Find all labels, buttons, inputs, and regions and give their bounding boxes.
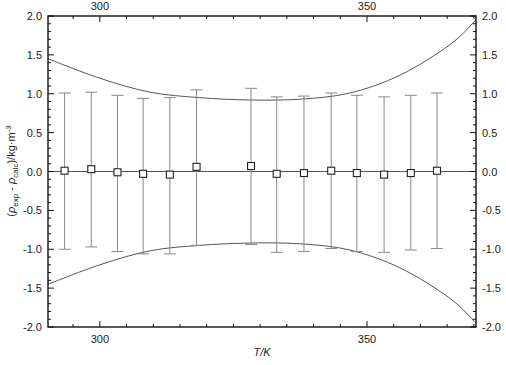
x-tick-label-top: 350 bbox=[358, 0, 376, 12]
svg-text:(ρexp - ρcalc)/kg·m-3: (ρexp - ρcalc)/kg·m-3 bbox=[4, 125, 20, 217]
data-point bbox=[298, 96, 310, 252]
square-marker bbox=[433, 167, 440, 174]
square-marker bbox=[381, 171, 388, 178]
square-marker bbox=[328, 167, 335, 174]
square-marker bbox=[166, 171, 173, 178]
x-tick-label-bottom: 300 bbox=[91, 333, 109, 345]
data-point bbox=[137, 98, 149, 254]
square-marker bbox=[407, 170, 414, 177]
y-tick-label-left: 1.0 bbox=[27, 88, 42, 100]
data-point bbox=[405, 95, 417, 250]
data-point bbox=[111, 95, 123, 251]
data-point bbox=[431, 93, 443, 249]
y-tick-label-left: 2.0 bbox=[27, 10, 42, 22]
y-tick-label-right: 1.5 bbox=[482, 49, 497, 61]
data-point bbox=[325, 93, 337, 249]
plot-area bbox=[48, 20, 476, 323]
y-tick-label-right: 0.0 bbox=[482, 166, 497, 178]
square-marker bbox=[193, 163, 200, 170]
y-tick-label-right: 0.5 bbox=[482, 127, 497, 139]
y-tick-label-left: 1.5 bbox=[27, 49, 42, 61]
data-point bbox=[85, 92, 97, 247]
square-marker bbox=[114, 169, 121, 176]
data-point bbox=[164, 98, 176, 254]
x-axis-label: T/K bbox=[253, 346, 271, 358]
square-marker bbox=[273, 170, 280, 177]
y-tick-label-right: 2.0 bbox=[482, 10, 497, 22]
data-point bbox=[245, 88, 257, 244]
y-tick-label-left: -1.0 bbox=[23, 243, 42, 255]
y-tick-label-right: -1.0 bbox=[482, 243, 501, 255]
upper-uncertainty-envelope-line bbox=[48, 20, 476, 100]
x-tick-label-bottom: 350 bbox=[358, 333, 376, 345]
lower-uncertainty-envelope-line bbox=[48, 243, 476, 323]
square-marker bbox=[248, 163, 255, 170]
y-tick-label-left: -0.5 bbox=[23, 204, 42, 216]
x-tick-label-top: 300 bbox=[91, 0, 109, 12]
y-tick-label-left: 0.5 bbox=[27, 127, 42, 139]
data-point bbox=[351, 95, 363, 251]
square-marker bbox=[353, 170, 360, 177]
y-axis-label: (ρexp - ρcalc)/kg·m-3 bbox=[4, 125, 20, 217]
data-point bbox=[378, 97, 390, 253]
y-tick-label-right: -0.5 bbox=[482, 204, 501, 216]
y-tick-label-left: -2.0 bbox=[23, 321, 42, 333]
y-tick-label-right: -1.5 bbox=[482, 282, 501, 294]
chart: -2.0-2.0-1.5-1.5-1.0-1.0-0.5-0.50.00.00.… bbox=[0, 0, 506, 365]
square-marker bbox=[88, 166, 95, 173]
y-tick-label-left: 0.0 bbox=[27, 166, 42, 178]
y-tick-label-right: 1.0 bbox=[482, 88, 497, 100]
square-marker bbox=[300, 170, 307, 177]
square-marker bbox=[140, 170, 147, 177]
data-point bbox=[271, 97, 283, 253]
y-tick-label-right: -2.0 bbox=[482, 321, 501, 333]
y-tick-label-left: -1.5 bbox=[23, 282, 42, 294]
data-point bbox=[191, 90, 203, 246]
square-marker bbox=[61, 167, 68, 174]
